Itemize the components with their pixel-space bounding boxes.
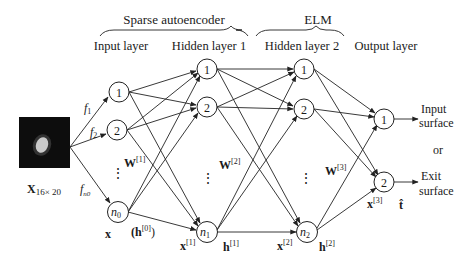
sparse-autoencoder-brace [100, 26, 248, 36]
x2-vector-label: x[2] [277, 238, 293, 253]
w3-label: W[3] [325, 163, 347, 178]
h0-vector-label: (h[0]) [131, 224, 155, 239]
hidden2-ellipsis: ⋮ [299, 171, 313, 186]
edges-w2 [217, 69, 300, 232]
w2-label: W[2] [219, 157, 241, 172]
hidden2-node-2-label: 2 [301, 103, 307, 117]
elm-title: ELM [304, 12, 332, 27]
hidden-layer-1-title: Hidden layer 1 [172, 39, 246, 53]
elm-brace [256, 26, 344, 36]
output-2-label-line1: Exit [421, 169, 442, 183]
input-node-1-label: 1 [116, 86, 122, 100]
h1-vector-label: h[1] [223, 239, 239, 254]
x3-vector-label: x[3] [367, 196, 383, 211]
hidden1-node-1-label: 1 [204, 63, 210, 77]
hidden2-node-1-label: 1 [301, 63, 307, 77]
output-1-label-line1: Input [421, 102, 447, 116]
x1-vector-label: x[1] [180, 238, 196, 253]
input-layer-title: Input layer [94, 39, 149, 53]
hidden1-ellipsis: ⋮ [201, 171, 215, 186]
sparse-autoencoder-title: Sparse autoencoder [123, 12, 225, 27]
input-image-label: X16× 20 [27, 182, 61, 197]
feature-f2-label: f2 [90, 125, 97, 140]
w1-label: W[1] [124, 155, 146, 170]
input-node-2-label: 2 [114, 124, 120, 138]
output-layer-title: Output layer [355, 39, 419, 53]
h2-vector-label: h[2] [319, 239, 335, 254]
output-node-1-label: 1 [381, 113, 387, 127]
t-hat-label: t̂ [399, 198, 403, 212]
x-vector-label: x [105, 227, 111, 241]
hidden-layer-2-title: Hidden layer 2 [265, 39, 339, 53]
feature-fn0-label: fn0 [80, 182, 91, 198]
output-node-2-label: 2 [381, 176, 387, 190]
edges-w1 [127, 71, 200, 230]
hidden1-node-2-label: 2 [204, 101, 210, 115]
or-label: or [433, 143, 443, 157]
network-diagram: Sparse autoencoder ELM Input layer Hidde… [0, 0, 473, 268]
feature-f1-label: f1 [84, 101, 91, 116]
output-1-label-line2: surface [419, 116, 454, 130]
output-2-label-line2: surface [419, 184, 454, 198]
input-ellipsis: ⋮ [111, 166, 125, 181]
